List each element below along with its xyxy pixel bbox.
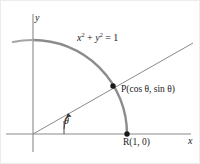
- angle-theta-label: θ: [64, 116, 69, 126]
- unit-circle-diagram: y x x2 + y2 = 1 P(cos θ, sin θ) R(1, 0) …: [0, 0, 200, 164]
- y-axis-label: y: [35, 13, 39, 23]
- point-p-label: P(cos θ, sin θ): [121, 85, 175, 95]
- unit-circle-arc-extension: [13, 40, 33, 42]
- circle-equation-label: x2 + y2 = 1: [77, 33, 118, 43]
- point-r-marker: [124, 131, 129, 136]
- diagram-canvas: [0, 0, 200, 164]
- point-p-marker: [110, 83, 115, 88]
- equation-plus-sign: +: [85, 32, 96, 43]
- equation-right-hand-side: = 1: [103, 32, 119, 43]
- figure-border: [1, 1, 200, 164]
- x-axis-label: x: [188, 136, 192, 146]
- point-r-label: R(1, 0): [123, 138, 150, 148]
